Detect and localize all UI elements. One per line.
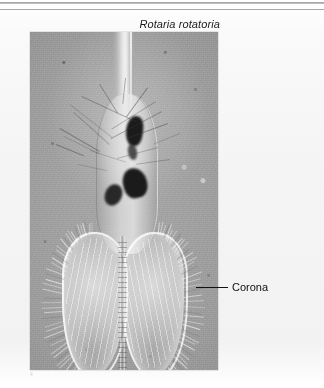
page-corner-mark: 4 <box>30 371 40 377</box>
species-title: Rotaria rotatoria <box>139 18 220 30</box>
micrograph-panel: 0.1 mm <box>30 32 218 370</box>
corona-groove-striations <box>118 242 127 370</box>
cilium <box>91 223 92 234</box>
cilium <box>89 224 90 234</box>
top-rule-secondary <box>0 9 324 10</box>
top-rule-primary <box>0 2 324 4</box>
organ-vitellarium <box>134 182 146 196</box>
corona-annotation-label: Corona <box>232 281 268 293</box>
cilium <box>155 224 156 234</box>
cilium <box>44 297 62 298</box>
corona-leader-line <box>196 287 228 288</box>
